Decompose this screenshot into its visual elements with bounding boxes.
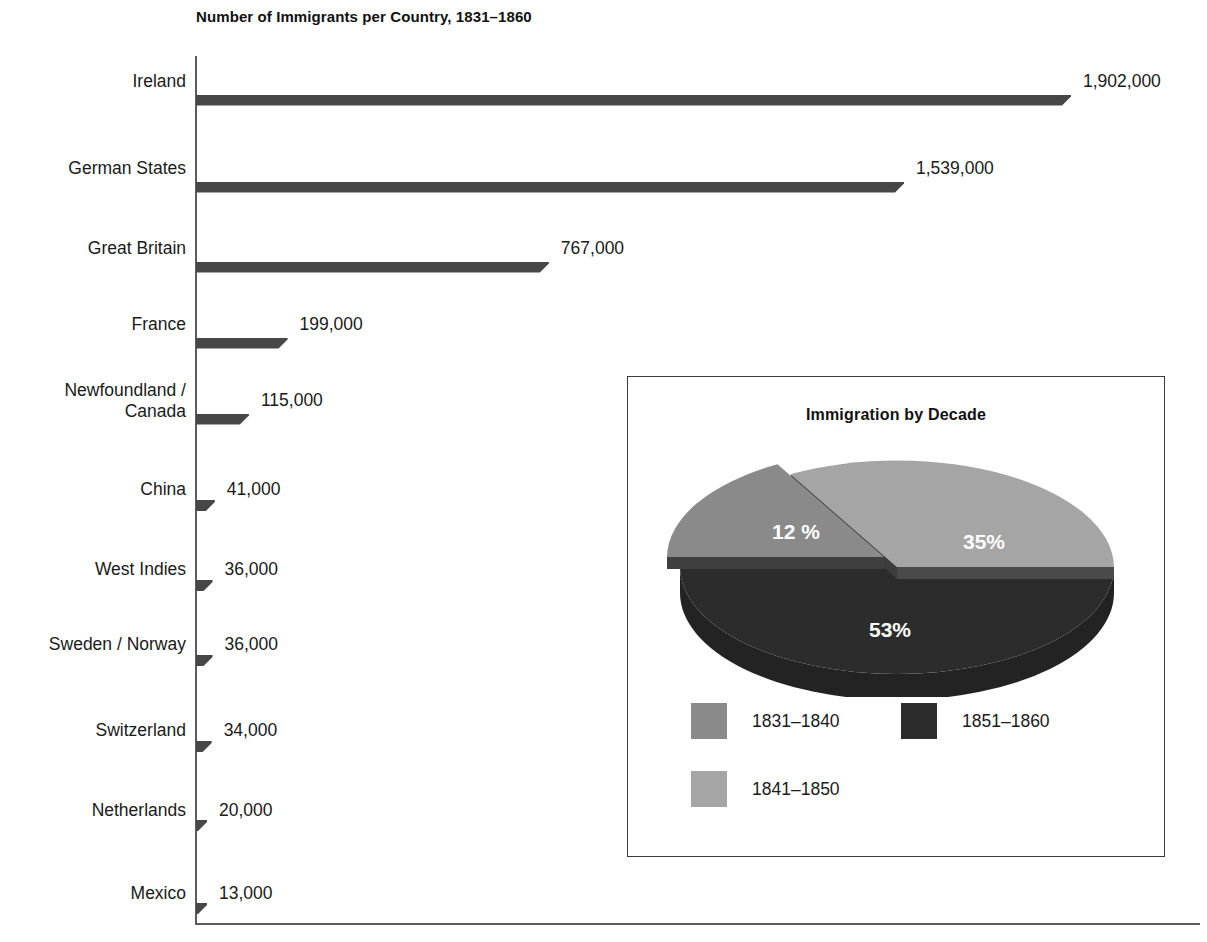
category-label: China [140,479,186,500]
category-label: Newfoundland / Canada [64,380,186,422]
bar [196,469,215,511]
legend-swatch-1831-1840 [691,703,727,739]
inset-panel: Immigration by Decade [627,376,1165,857]
category-label: German States [68,158,186,179]
bar-shadow [196,262,549,273]
legend-label-1851-1860: 1851–1860 [962,711,1050,732]
bar-shadow [196,655,213,666]
bar [196,302,288,349]
inset-title: Immigration by Decade [628,406,1164,424]
bar [196,226,549,273]
bar-shadow [196,580,213,591]
bar [196,549,213,591]
category-label: Ireland [132,71,186,92]
bar-shadow [196,500,215,511]
bar-value-label: 36,000 [225,559,279,580]
bar-value-label: 13,000 [219,883,273,904]
pie-label-1831-1840: 12 % [772,520,820,543]
pie-svg: 35% 12 % 53% [658,437,1136,697]
bar-value-label: 34,000 [224,720,278,741]
category-label: Sweden / Norway [49,634,186,655]
bar-value-label: 41,000 [227,479,281,500]
legend-label-1841-1850: 1841–1850 [752,779,840,800]
bar-shadow [196,182,904,193]
category-label: Netherlands [92,800,186,821]
bar-value-label: 20,000 [219,800,273,821]
legend-swatch-1841-1850 [691,771,727,807]
chart-canvas: Number of Immigrants per Country, 1831–1… [0,0,1207,942]
bar-value-label: 1,902,000 [1083,71,1161,92]
bar-value-label: 36,000 [225,634,279,655]
pie-label-1841-1850: 35% [963,530,1005,553]
bar-value-label: 767,000 [561,238,624,259]
category-label: France [132,314,186,335]
legend-swatch-1851-1860 [901,703,937,739]
bar [196,791,207,831]
category-label: Switzerland [96,720,186,741]
category-label: West Indies [95,559,186,580]
bar-value-label: 1,539,000 [916,158,994,179]
category-label: Great Britain [88,238,186,259]
legend-item-1831-1840: 1831–1840 [691,703,840,739]
bar-value-label: 199,000 [300,314,363,335]
bar-shadow [196,741,212,752]
bar [196,146,904,193]
bar-value-label: 115,000 [261,390,323,411]
bar [196,378,249,425]
bar [196,874,207,914]
pie-label-1851-1860: 53% [869,618,911,641]
pie-chart: 35% 12 % 53% [658,437,1136,697]
legend-item-1851-1860: 1851–1860 [901,703,1050,739]
x-axis-line [195,923,1200,925]
bar [196,59,1071,106]
bar-shadow [196,414,249,425]
category-label: Mexico [131,883,186,904]
legend-item-1841-1850: 1841–1850 [691,771,840,807]
legend-label-1831-1840: 1831–1840 [752,711,840,732]
bar [196,710,212,752]
bar [196,624,213,666]
bar-shadow [196,903,207,914]
bar-shadow [196,338,288,349]
bar-shadow [196,820,207,831]
bar-shadow [196,95,1071,106]
page-title: Number of Immigrants per Country, 1831–1… [196,8,532,25]
